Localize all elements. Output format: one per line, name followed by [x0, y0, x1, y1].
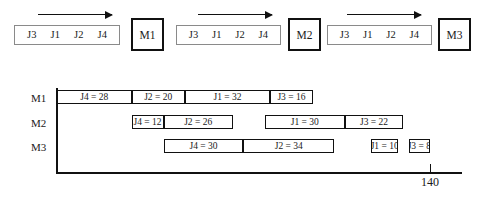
job-queue-m3: J3J1J2J4: [327, 25, 432, 45]
gantt-bar-m2-j3: J3 = 22: [345, 115, 404, 129]
gantt-bar-m1-j4: J4 = 28: [57, 90, 132, 104]
gantt-bar-m2-j1: J1 = 30: [265, 115, 345, 129]
job-flow-group-m3: J3J1J2J4M3: [0, 0, 485, 60]
gantt-bar-m2-j2: J2 = 26: [164, 115, 233, 129]
gantt-chart: M1J4 = 28J2 = 20J1 = 32J3 = 16M2J4 = 12J…: [0, 85, 485, 200]
gantt-bar-m3-j3: J3 = 8: [409, 139, 430, 153]
gantt-row-label-m2: M2: [31, 117, 46, 129]
gantt-row-label-m1: M1: [31, 92, 46, 104]
x-axis-tick-label: 140: [421, 175, 439, 190]
gantt-bar-m3-j1: J1 = 10: [371, 139, 398, 153]
queue-job-label: J3: [340, 30, 350, 40]
gantt-bar-m3-j4: J4 = 30: [164, 139, 244, 153]
gantt-row-label-m3: M3: [31, 141, 46, 153]
queue-job-label: J4: [410, 30, 420, 40]
figure-canvas: J3J1J2J4M1J3J1J2J4M2J3J1J2J4M3 M1J4 = 28…: [0, 0, 485, 200]
queue-job-label: J1: [363, 30, 373, 40]
gantt-bar-m2-j4: J4 = 12: [132, 115, 164, 129]
gantt-bar-m1-j2: J2 = 20: [132, 90, 185, 104]
gantt-bar-m3-j2: J2 = 34: [243, 139, 334, 153]
arrow-head: [414, 11, 422, 19]
gantt-bar-m1-j1: J1 = 32: [185, 90, 270, 104]
gantt-bar-m1-j3: J3 = 16: [270, 90, 313, 104]
machine-box-m3: M3: [438, 18, 471, 51]
arrow-right-icon: [347, 10, 421, 20]
x-axis-line: [56, 172, 462, 174]
queue-job-label: J2: [386, 30, 396, 40]
x-axis-tick: [430, 164, 432, 173]
arrow-shaft: [347, 14, 421, 15]
